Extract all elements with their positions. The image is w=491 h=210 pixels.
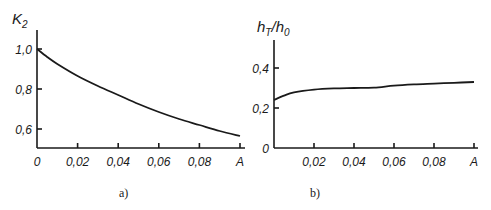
x-tick-label-a: 0,02 bbox=[66, 155, 90, 169]
x-tick-label-b: 0,06 bbox=[382, 155, 406, 169]
y-tick-label-a: 0,6 bbox=[15, 123, 32, 137]
x-tick-label-a: 0 bbox=[34, 155, 41, 169]
x-tick-label-b: 0,08 bbox=[422, 155, 446, 169]
y-axis-title-b: hT/h0 bbox=[257, 18, 290, 38]
curve-k2 bbox=[37, 49, 240, 136]
y-tick-label-a: 0,8 bbox=[15, 83, 32, 97]
y-tick-label-a: 1,0 bbox=[15, 43, 32, 57]
panel-a: K2 1,00,80,6 00,020,040,060,08A a) bbox=[12, 10, 245, 200]
caption-b: b) bbox=[310, 186, 320, 200]
y-tick-label-b: 0,4 bbox=[252, 62, 269, 76]
y-axis-title-a: K2 bbox=[12, 10, 28, 30]
x-tick-label-a: A bbox=[235, 155, 244, 169]
x-tick-label-a: 0,04 bbox=[107, 155, 131, 169]
x-tick-label-b: A bbox=[469, 155, 478, 169]
x-tick-label-a: 0,08 bbox=[188, 155, 212, 169]
x-tick-label-b: 0,04 bbox=[342, 155, 366, 169]
curve-ht-h0 bbox=[274, 82, 474, 100]
panel-b: hT/h0 00,20,4 0,020,040,060,08A b) bbox=[252, 18, 478, 200]
caption-a: a) bbox=[119, 186, 128, 200]
x-tick-label-b: 0,02 bbox=[302, 155, 326, 169]
y-tick-label-b: 0 bbox=[262, 142, 269, 156]
y-tick-label-b: 0,2 bbox=[252, 102, 269, 116]
x-tick-label-a: 0,06 bbox=[147, 155, 171, 169]
figure: K2 1,00,80,6 00,020,040,060,08A a) hT/h0… bbox=[0, 0, 491, 210]
